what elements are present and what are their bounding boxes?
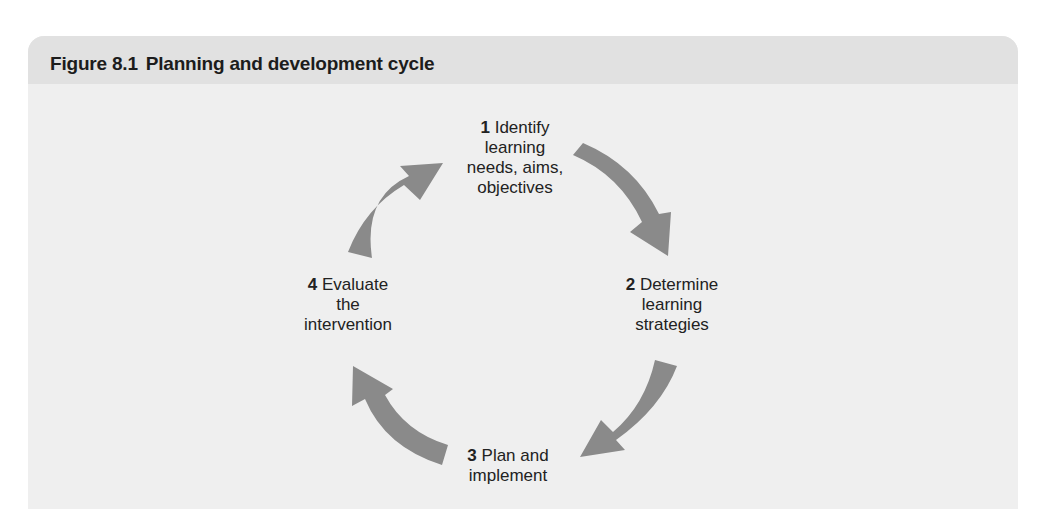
arrow-3-to-4-icon (352, 366, 448, 465)
arrow-2-to-3-icon (580, 360, 677, 457)
step-3-label: 3 Plan and implement (467, 446, 548, 486)
arrow-4-to-1-icon (348, 163, 443, 258)
arrow-1-to-2-icon (573, 143, 671, 256)
step-4-label: 4 Evaluate the intervention (304, 275, 392, 335)
step-1-label: 1 Identify learning needs, aims, objecti… (467, 118, 563, 198)
step-2-label: 2 Determine learning strategies (626, 275, 719, 335)
